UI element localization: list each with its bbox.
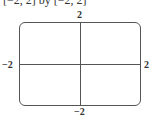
y-min-label: −2 bbox=[74, 107, 85, 117]
window-range-title: [−2, 2] by [−2, 2] bbox=[3, 0, 87, 8]
y-max-label: 2 bbox=[77, 10, 82, 20]
x-max-label: 2 bbox=[144, 60, 149, 70]
y-axis bbox=[80, 22, 81, 106]
x-min-label: −2 bbox=[2, 60, 13, 70]
